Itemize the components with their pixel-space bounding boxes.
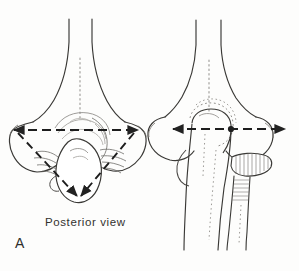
- figure-illustration: [0, 0, 299, 271]
- figure-background: [0, 0, 299, 271]
- axis-center-marker: [228, 126, 234, 132]
- radial-head-outline: [231, 153, 272, 176]
- panel-letter-label: A: [15, 235, 25, 251]
- anatomical-figure: Posterior view A: [0, 0, 299, 271]
- posterior-view-caption: Posterior view: [45, 216, 126, 228]
